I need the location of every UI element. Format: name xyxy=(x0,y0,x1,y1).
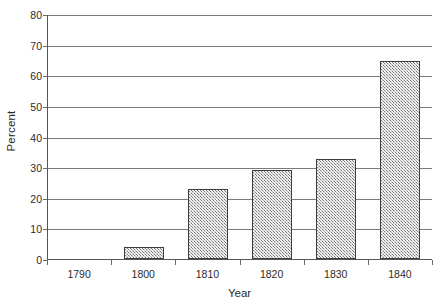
x-axis-tick-label: 1800 xyxy=(111,268,175,284)
bar[interactable] xyxy=(188,189,228,259)
bar-chart-figure: Percent 01020304050607080 17901800181018… xyxy=(0,0,445,307)
x-axis-tick-mark xyxy=(111,260,112,265)
y-axis-tick-label: 40 xyxy=(30,132,42,144)
x-axis-tick-marks xyxy=(47,260,432,265)
plot-area xyxy=(47,15,432,260)
y-axis-title-label: Percent xyxy=(5,110,17,151)
y-axis-tick-label: 70 xyxy=(30,40,42,52)
x-axis-tick-mark xyxy=(304,260,305,265)
x-axis-tick-label: 1810 xyxy=(175,268,239,284)
bar[interactable] xyxy=(124,247,164,259)
y-axis-title: Percent xyxy=(0,0,22,262)
y-axis-tick-label: 30 xyxy=(30,162,42,174)
x-axis-tick-mark xyxy=(240,260,241,265)
x-axis-tick-label: 1830 xyxy=(304,268,368,284)
bar-slot xyxy=(240,15,304,259)
bar[interactable] xyxy=(316,159,356,259)
bar-slot xyxy=(304,15,368,259)
y-axis-tick-label: 80 xyxy=(30,9,42,21)
y-axis-tick-label: 20 xyxy=(30,193,42,205)
bar[interactable] xyxy=(252,170,292,259)
x-axis-tick-mark xyxy=(432,260,433,265)
y-axis-tick-label: 50 xyxy=(30,101,42,113)
x-axis-tick-label: 1820 xyxy=(240,268,304,284)
y-axis-tick-label: 60 xyxy=(30,70,42,82)
bar[interactable] xyxy=(380,61,420,259)
y-axis-tick-label: 0 xyxy=(36,254,42,266)
x-axis-tick-mark xyxy=(175,260,176,265)
bar-slot xyxy=(368,15,432,259)
bar-slot xyxy=(112,15,176,259)
x-axis-tick-labels: 179018001810182018301840 xyxy=(47,268,432,284)
x-axis-title: Year xyxy=(47,287,432,299)
x-axis-tick-mark xyxy=(368,260,369,265)
y-axis-tick-label: 10 xyxy=(30,223,42,235)
x-axis-tick-label: 1840 xyxy=(368,268,432,284)
bar-slot xyxy=(176,15,240,259)
x-axis-tick-label: 1790 xyxy=(47,268,111,284)
bar-slot xyxy=(48,15,112,259)
y-axis-tick-labels: 01020304050607080 xyxy=(20,9,42,260)
x-axis-tick-mark xyxy=(47,260,48,265)
bars-container xyxy=(48,15,432,259)
